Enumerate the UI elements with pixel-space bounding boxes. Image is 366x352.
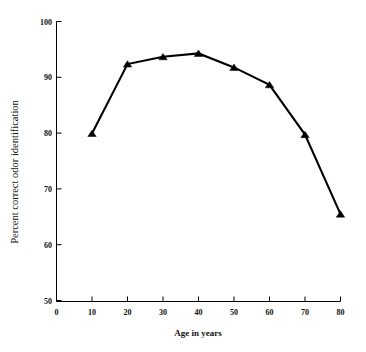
data-point-marker — [88, 130, 96, 136]
y-tick-label: 70 — [44, 185, 52, 194]
x-tick-label: 0 — [55, 308, 59, 317]
y-tick-label: 100 — [40, 18, 52, 27]
y-tick-label: 50 — [44, 297, 52, 306]
data-series — [88, 50, 345, 217]
x-tick-label: 70 — [301, 308, 309, 317]
x-tick-label: 50 — [230, 308, 238, 317]
data-point-marker — [336, 211, 344, 217]
y-tick-label: 90 — [44, 73, 52, 82]
x-tick-label: 20 — [124, 308, 132, 317]
y-tick-label: 60 — [44, 241, 52, 250]
y-axis-ticks — [57, 22, 62, 301]
chart-figure: 100 90 80 70 60 50 0 10 20 30 40 50 — [0, 0, 366, 352]
y-axis-tick-labels: 100 90 80 70 60 50 — [40, 18, 52, 306]
line-chart-canvas: 100 90 80 70 60 50 0 10 20 30 40 50 — [0, 0, 366, 352]
x-tick-label: 30 — [159, 308, 167, 317]
x-axis-ticks — [57, 297, 341, 302]
y-tick-label: 80 — [44, 129, 52, 138]
series-markers — [88, 50, 345, 217]
x-tick-label: 60 — [266, 308, 274, 317]
x-axis-title: Age in years — [174, 328, 222, 338]
y-axis-title: Percent correct odor identification — [9, 99, 20, 243]
x-tick-label: 40 — [195, 308, 203, 317]
x-tick-label: 80 — [337, 308, 345, 317]
x-tick-label: 10 — [88, 308, 96, 317]
x-axis-tick-labels: 0 10 20 30 40 50 60 70 80 — [55, 308, 345, 317]
